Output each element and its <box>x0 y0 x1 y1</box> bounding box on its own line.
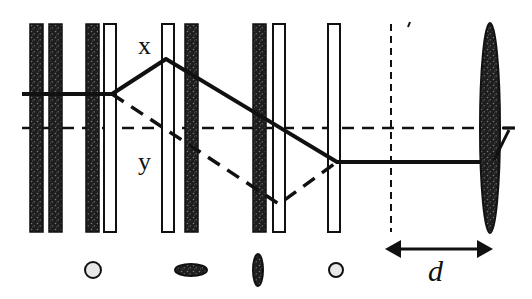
vertical-elliptical-polarization-icon <box>253 254 263 286</box>
polarizer-plate-4 <box>185 24 198 232</box>
horizontal-elliptical-polarization-icon <box>175 264 207 276</box>
polarization-icons <box>85 254 343 286</box>
arrowhead-right <box>477 240 493 258</box>
label-x: x <box>138 31 151 60</box>
polarizer-plate-2 <box>49 24 62 232</box>
label-y: y <box>138 147 151 176</box>
circular-polarization-icon <box>85 262 101 278</box>
polarizer-plate-3 <box>86 24 99 232</box>
label-d: d <box>428 254 444 287</box>
polarizer-plate-5 <box>253 24 266 232</box>
polarizer-plate-1 <box>30 24 43 232</box>
waveplate-1 <box>104 24 116 232</box>
arrowhead-left <box>385 240 401 258</box>
tick-mark <box>408 22 410 27</box>
optics-diagram: x y d <box>0 0 532 299</box>
waveplate-4 <box>328 24 340 232</box>
lens <box>480 23 500 233</box>
waveplate-2 <box>162 24 174 232</box>
circular-polarization-icon-2 <box>329 263 343 277</box>
